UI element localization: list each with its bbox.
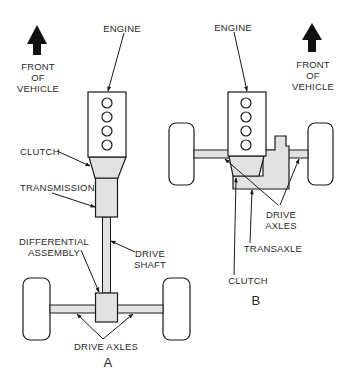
clutch-a bbox=[89, 157, 126, 178]
drive-axles-label-b: DRIVE AXLES bbox=[265, 209, 297, 231]
engine-label-b: ENGINE bbox=[214, 22, 252, 33]
wheel-rear-left-a bbox=[23, 278, 50, 340]
transmission-a bbox=[96, 178, 118, 217]
drivetrain-diagram: FRONT OF VEHICLE ENGINE CLUTCH TRANSMISS… bbox=[0, 0, 349, 383]
clutch-label-b: CLUTCH bbox=[228, 275, 268, 286]
drive-shaft-a bbox=[103, 217, 111, 293]
caption-b: B bbox=[252, 294, 261, 308]
differential-assembly-a bbox=[96, 293, 118, 322]
front-of-vehicle-arrow-icon-b bbox=[302, 23, 322, 52]
transaxle-label-b: TRANSAXLE bbox=[244, 243, 302, 254]
clutch-label-a: CLUTCH bbox=[20, 146, 60, 157]
drive-shaft-label-a: DRIVE SHAFT bbox=[134, 248, 166, 270]
front-of-vehicle-label-b: FRONT OF VEHICLE bbox=[292, 59, 334, 92]
clutch-b bbox=[229, 156, 264, 176]
transmission-label-a: TRANSMISSION bbox=[20, 182, 95, 193]
wheel-front-right-b bbox=[308, 123, 333, 185]
drive-axles-label-a: DRIVE AXLES bbox=[74, 341, 138, 352]
differential-assembly-label-a: DIFFERENTIAL ASSEMBLY bbox=[19, 236, 89, 258]
front-of-vehicle-label-a: FRONT OF VEHICLE bbox=[17, 61, 59, 94]
wheel-rear-right-a bbox=[163, 278, 190, 340]
wheel-front-left-b bbox=[169, 123, 194, 185]
front-of-vehicle-arrow-icon-a bbox=[27, 25, 47, 55]
engine-label-a: ENGINE bbox=[103, 23, 141, 34]
caption-a: A bbox=[104, 356, 113, 370]
